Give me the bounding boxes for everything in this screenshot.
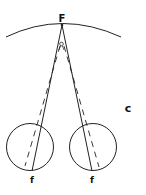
fixation-point-label: F — [59, 13, 66, 24]
left-eye — [7, 124, 54, 171]
left-dashed-axis — [25, 46, 60, 166]
right-eye — [70, 124, 117, 171]
left-fovea-label: f — [30, 175, 34, 185]
right-fovea-label: f — [90, 175, 94, 185]
right-visual-axis — [62, 25, 92, 171]
panel-label: c — [125, 102, 132, 115]
near-point-marker — [60, 42, 64, 46]
binocular-fixation-diagram: F f f c — [0, 0, 146, 195]
left-visual-axis — [32, 25, 62, 171]
